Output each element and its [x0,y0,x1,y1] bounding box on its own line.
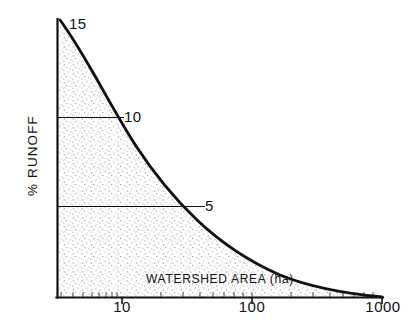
annotation-label-5: 5 [205,197,214,214]
area-fill-group [57,20,382,297]
x-tick-label-1000: 1000 [352,298,414,315]
x-tick-label-100: 100 [226,298,278,315]
y-axis-title: % RUNOFF [25,96,40,216]
area-under-curve [57,20,382,297]
x-tick-label-10: 10 [101,298,143,315]
x-axis-title: WATERSHED AREA (ha) [146,272,294,286]
figure-container: % RUNOFF WATERSHED AREA (ha) 10 100 1000… [0,0,420,330]
annotation-label-10: 10 [124,108,142,125]
annotation-label-15: 15 [69,15,87,32]
